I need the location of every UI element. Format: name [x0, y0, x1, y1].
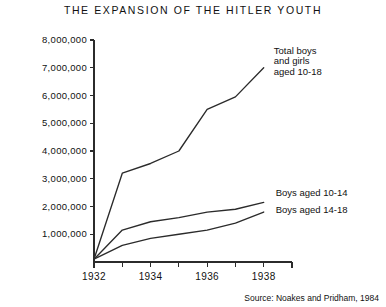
y-axis-tick-label: 1,000,000 — [0, 228, 87, 239]
y-axis-tick-label: 2,000,000 — [0, 201, 87, 212]
series-line-0 — [94, 68, 264, 259]
x-axis-tick-label: 1936 — [184, 271, 230, 282]
series-label-line: Boys aged 10-14 — [276, 188, 348, 199]
x-axis-tick-label: 1938 — [241, 271, 287, 282]
y-axis-tick-label: 7,000,000 — [0, 62, 87, 73]
series-line-2 — [94, 212, 264, 259]
y-axis-tick-label: 8,000,000 — [0, 34, 87, 45]
y-axis-tick-label: 3,000,000 — [0, 173, 87, 184]
y-axis-tick-label: 6,000,000 — [0, 90, 87, 101]
chart-series-lines — [94, 68, 264, 259]
series-label-0: Total boysand girlsaged 10-18 — [274, 46, 322, 78]
series-label-line: Boys aged 14-18 — [276, 205, 348, 216]
series-line-1 — [94, 202, 264, 259]
series-label-line: aged 10-18 — [274, 67, 322, 78]
x-axis-tick-label: 1934 — [128, 271, 174, 282]
chart-axes — [90, 40, 292, 268]
chart-container: THE EXPANSION OF THE HITLER YOUTH 1,000,… — [0, 0, 386, 307]
y-axis-tick-label: 5,000,000 — [0, 117, 87, 128]
x-axis-tick-label: 1932 — [71, 271, 117, 282]
source-note: Source: Noakes and Pridham, 1984 — [244, 293, 379, 303]
y-axis-tick-label: 4,000,000 — [0, 145, 87, 156]
series-label-2: Boys aged 14-18 — [276, 205, 348, 216]
series-label-1: Boys aged 10-14 — [276, 188, 348, 199]
